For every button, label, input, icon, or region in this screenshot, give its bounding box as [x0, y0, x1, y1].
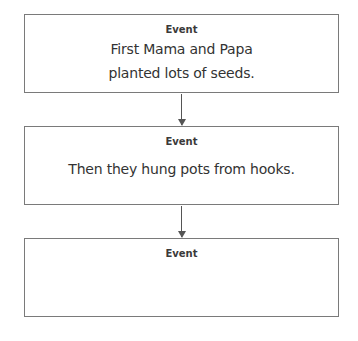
arrow-down-icon: [181, 94, 182, 125]
event-label: Event: [25, 248, 338, 260]
event-box-3: Event: [24, 238, 339, 317]
arrow-down-icon: [181, 206, 182, 237]
event-text-line: Then they hung pots from hooks.: [25, 157, 338, 181]
event-box-1: Event First Mama and Papa planted lots o…: [24, 14, 339, 93]
event-label: Event: [25, 24, 338, 36]
event-label: Event: [25, 136, 338, 148]
event-text-line: planted lots of seeds.: [25, 61, 338, 85]
event-text-line: First Mama and Papa: [25, 37, 338, 61]
event-box-2: Event Then they hung pots from hooks.: [24, 126, 339, 205]
